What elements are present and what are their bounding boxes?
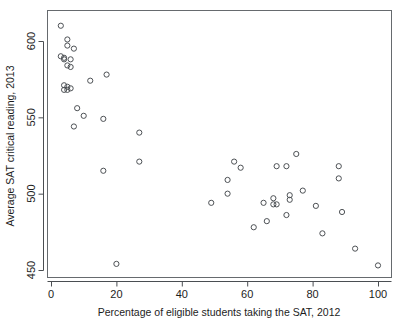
data-point xyxy=(68,57,73,62)
data-point xyxy=(264,219,269,224)
data-point xyxy=(225,177,230,182)
data-point xyxy=(271,196,276,201)
x-axis-title: Percentage of eligible students taking t… xyxy=(98,306,341,318)
data-point xyxy=(284,212,289,217)
x-tick-label: 80 xyxy=(306,288,318,300)
data-point xyxy=(81,113,86,118)
data-point xyxy=(137,130,142,135)
data-point xyxy=(300,188,305,193)
y-axis-title: Average SAT critical reading, 2013 xyxy=(4,65,16,226)
data-point xyxy=(104,72,109,77)
data-point xyxy=(274,202,279,207)
data-point xyxy=(336,176,341,181)
data-point xyxy=(71,46,76,51)
data-point xyxy=(320,231,325,236)
data-point xyxy=(137,159,142,164)
data-point xyxy=(274,164,279,169)
data-point xyxy=(114,261,119,266)
data-point xyxy=(209,200,214,205)
data-point xyxy=(284,164,289,169)
y-tick-label: 550 xyxy=(25,108,37,126)
x-axis-tick-labels: 020406080100 xyxy=(48,288,387,300)
x-tick-label: 40 xyxy=(176,288,188,300)
data-point xyxy=(65,43,70,48)
x-axis-ticks xyxy=(52,282,379,287)
x-tick-label: 0 xyxy=(48,288,54,300)
plot-frame xyxy=(48,11,392,278)
data-point xyxy=(313,203,318,208)
data-point xyxy=(238,165,243,170)
y-tick-label: 500 xyxy=(25,184,37,202)
y-axis-tick-labels: 450500550600 xyxy=(25,32,37,279)
x-tick-label: 20 xyxy=(110,288,122,300)
data-point xyxy=(101,168,106,173)
y-axis-ticks xyxy=(39,42,44,271)
data-point xyxy=(251,225,256,230)
data-point xyxy=(88,78,93,83)
y-tick-label: 450 xyxy=(25,261,37,279)
data-point xyxy=(353,246,358,251)
data-point xyxy=(261,200,266,205)
data-point xyxy=(225,191,230,196)
x-tick-label: 100 xyxy=(369,288,387,300)
data-point xyxy=(375,263,380,268)
data-points-group xyxy=(58,23,380,268)
data-point xyxy=(71,124,76,129)
plot-canvas: 020406080100 450500550600 Percentage of … xyxy=(0,0,408,327)
data-point xyxy=(75,106,80,111)
data-point xyxy=(65,37,70,42)
scatter-plot-figure: 020406080100 450500550600 Percentage of … xyxy=(0,0,408,327)
data-point xyxy=(101,116,106,121)
data-point xyxy=(232,159,237,164)
y-tick-label: 600 xyxy=(25,32,37,50)
data-point xyxy=(339,209,344,214)
data-point xyxy=(336,164,341,169)
data-point xyxy=(58,23,63,28)
x-tick-label: 60 xyxy=(241,288,253,300)
data-point xyxy=(294,151,299,156)
